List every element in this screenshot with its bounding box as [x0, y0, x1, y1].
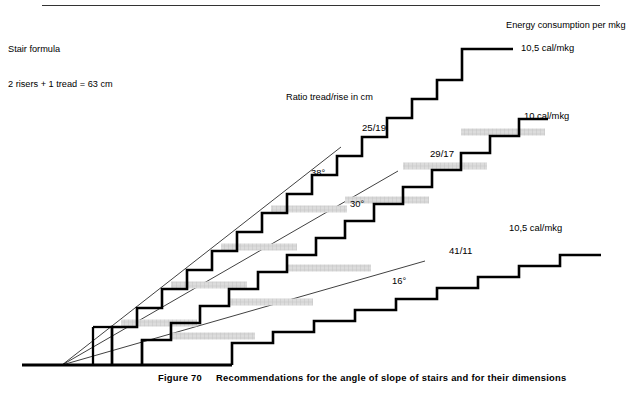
energy-consumption-header: Energy consumption per mkg: [506, 20, 626, 32]
ratio-label-steep: 25/19: [362, 122, 386, 133]
medium-hatched-treads: [171, 129, 545, 340]
ratio-label-medium: 29/17: [430, 148, 454, 159]
figure-caption-text: Recommendations for the angle of slope o…: [216, 372, 567, 383]
figure-caption-number: Figure 70: [158, 372, 202, 383]
energy-label-medium: 10 cal/mkg: [524, 110, 569, 121]
stair-formula-body: 2 risers + 1 tread = 63 cm: [8, 79, 113, 91]
ratio-tread-rise-header: Ratio tread/rise in cm: [286, 92, 373, 102]
stair-formula-title: Stair formula: [8, 44, 113, 56]
angle-label-steep: 38°: [311, 167, 325, 178]
ray-16deg: [62, 261, 425, 365]
figure-caption: Figure 70Recommendations for the angle o…: [158, 372, 610, 384]
energy-label-shallow: 10,5 cal/mkg: [509, 222, 562, 233]
energy-label-steep: 10,5 cal/mkg: [521, 42, 574, 53]
ratio-label-shallow: 41/11: [449, 245, 472, 256]
steep-base-verticals: [93, 327, 112, 365]
angle-label-medium: 30°: [350, 198, 364, 209]
angle-label-shallow: 16°: [392, 275, 406, 286]
angle-rays: [62, 147, 425, 365]
stair-formula-note: Stair formula 2 risers + 1 tread = 63 cm: [8, 20, 113, 114]
